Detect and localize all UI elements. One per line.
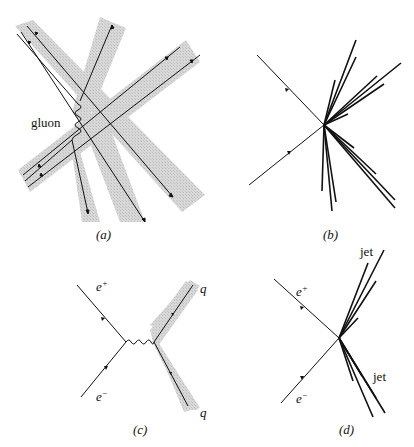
jet-label-top: jet [360,244,373,260]
caption-d: (d) [339,422,354,438]
panel-d [274,250,385,417]
quark-label-top: q [200,281,207,297]
feynman-diagram-figure [0,0,414,447]
caption-a: (a) [96,227,111,243]
electron-label-c: e− [96,388,108,405]
positron-label-c: e+ [96,278,108,295]
quark-label-bottom: q [200,405,207,421]
positron-label-d: e+ [296,283,308,300]
gluon-label: gluon [31,115,61,131]
jet-label-bottom: jet [373,369,386,385]
photon-line [126,340,154,344]
electron-label-d: e− [296,390,308,407]
panel-b [249,40,401,211]
caption-b: (b) [323,227,338,243]
caption-c: (c) [133,422,147,438]
